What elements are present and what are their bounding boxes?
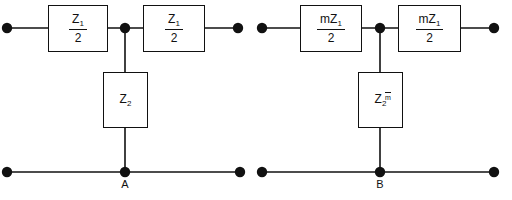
terminal-a-top-left <box>2 23 12 33</box>
component-b-shunt: Z2m <box>358 72 403 128</box>
label-a-series-right-denominator: 2 <box>171 30 178 44</box>
label-b-series-left-numerator: mZ1 <box>317 13 345 30</box>
component-a-shunt: Z2 <box>103 72 148 128</box>
terminal-a-bottom-right <box>235 167 245 177</box>
terminal-b-top-right <box>489 23 499 33</box>
component-b-series-right: mZ1 2 <box>398 5 461 52</box>
label-b-shunt-divisor: m <box>385 91 391 101</box>
label-b-series-right-denominator: 2 <box>426 30 433 44</box>
label-a-series-right: Z1 2 <box>165 13 183 44</box>
component-a-series-left: Z1 2 <box>48 5 108 52</box>
component-b-series-left: mZ1 2 <box>300 5 362 52</box>
junction-a-bottom <box>120 167 130 177</box>
node-label-a: A <box>115 178 135 190</box>
terminal-a-bottom-left <box>2 167 12 177</box>
label-b-series-right: mZ1 2 <box>416 13 444 44</box>
junction-b-bottom <box>375 167 385 177</box>
label-b-series-right-numerator: mZ1 <box>416 13 444 30</box>
terminal-b-bottom-right <box>489 167 499 177</box>
terminal-b-bottom-left <box>257 167 267 177</box>
label-b-series-left-denominator: 2 <box>328 30 335 44</box>
terminal-a-top-right <box>233 23 243 33</box>
terminal-b-top-left <box>257 23 267 33</box>
label-a-series-left-denominator: 2 <box>75 30 82 44</box>
label-a-series-right-numerator: Z1 <box>165 13 183 30</box>
junction-b-top <box>375 23 385 33</box>
circuit-diagram: Z1 2 Z1 2 Z2 A mZ1 2 mZ1 2 Z2m B <box>0 0 512 200</box>
junction-a-top <box>120 23 130 33</box>
component-a-series-right: Z1 2 <box>143 5 205 52</box>
label-b-series-left: mZ1 2 <box>317 13 345 44</box>
label-b-shunt: Z2m <box>375 92 387 108</box>
node-label-b: B <box>370 178 390 190</box>
label-a-shunt: Z2 <box>120 92 132 108</box>
label-a-series-left: Z1 2 <box>69 13 87 44</box>
label-a-series-left-numerator: Z1 <box>69 13 87 30</box>
